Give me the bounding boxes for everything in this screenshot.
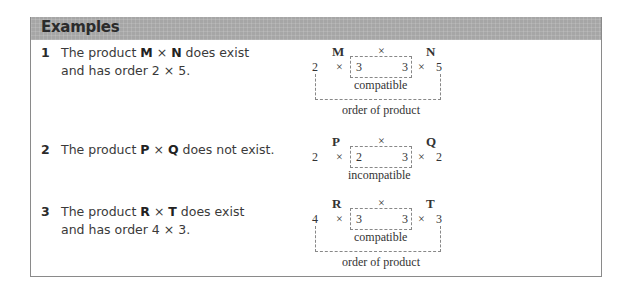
example-number: 1: [41, 44, 50, 62]
rows-left: 2: [312, 150, 318, 165]
times-left: ×: [336, 212, 343, 227]
rows-left: 4: [312, 212, 318, 227]
examples-header: Examples: [31, 17, 601, 40]
order-diagram-3: R × T 4 × 3 3 × 3 compatible order of pr…: [312, 196, 442, 276]
times-left: ×: [336, 150, 343, 165]
outer-dashed-box: [315, 74, 441, 100]
rows-left: 2: [312, 60, 318, 75]
times-right: ×: [418, 212, 425, 227]
inner-label: incompatible: [348, 168, 411, 183]
inner-dashed-box: [350, 146, 412, 168]
example-text-line2: and has order 2 × 5.: [61, 62, 190, 80]
example-number: 3: [41, 203, 50, 221]
cols-right: 3: [436, 212, 442, 227]
examples-title: Examples: [41, 18, 119, 36]
matrix-label-right: Q: [426, 134, 436, 150]
matrix-label-left: M: [332, 44, 344, 60]
example-text-line2: and has order 4 × 3.: [61, 221, 190, 239]
matrix-label-left: P: [332, 134, 340, 150]
outer-dashed-box: [315, 226, 441, 252]
matrix-label-right: T: [426, 196, 435, 212]
times-right: ×: [418, 60, 425, 75]
outer-label: order of product: [342, 255, 420, 270]
outer-label: order of product: [342, 103, 420, 118]
order-diagram-2: P × Q 2 × 2 3 × 2 incompatible: [312, 134, 442, 184]
example-text-line1: The product M × N does exist: [61, 44, 249, 62]
cols-right: 5: [436, 60, 442, 75]
times-left: ×: [336, 60, 343, 75]
matrix-label-left: R: [332, 196, 341, 212]
example-number: 2: [41, 141, 50, 159]
matrix-label-right: N: [426, 44, 435, 60]
example-text-line1: The product P × Q does not exist.: [61, 141, 274, 159]
cols-right: 2: [436, 150, 442, 165]
times-right: ×: [418, 150, 425, 165]
order-diagram-1: M × N 2 × 3 3 × 5 compatible order of pr…: [312, 44, 442, 124]
example-text-line1: The product R × T does exist: [61, 203, 244, 221]
